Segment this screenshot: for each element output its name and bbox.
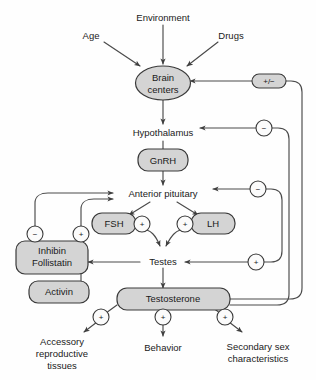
gnrh-label: GnRH [150,155,177,166]
arrow-age-to-brain [104,42,140,66]
sign-fsh-label: + [140,220,145,229]
sign-secondary-sex-positive: + [217,309,233,325]
sign-lh-label: + [183,220,188,229]
accessory-line2: reproductive [36,348,88,359]
sign-accessory-positive: + [93,309,109,325]
sign-behavior-label: + [161,313,166,322]
label-secondary-sex-characteristics: Secondary sex characteristics [227,341,290,364]
label-behavior: Behavior [144,342,182,353]
arrow-drugs-to-brain [187,42,218,66]
line-testosterone-to-anterior-pituitary-loop [264,189,282,262]
sign-inhibin-label: − [33,230,38,239]
arrow-to-secondary-sex [229,322,242,332]
node-anterior-pituitary: Anterior pituitary [128,188,197,199]
sign-secondary-sex-label: + [223,313,228,322]
node-testes: Testes [149,256,177,267]
sign-behavior-positive: + [155,309,171,325]
secondary-line2: characteristics [228,353,289,364]
sign-anterior-pituitary-label: − [256,185,261,194]
sign-anterior-pituitary-feedback: − [250,181,266,197]
label-accessory-reproductive-tissues: Accessory reproductive tissues [36,336,88,371]
inhibin-label-line1: Inhibin [38,245,66,256]
accessory-line1: Accessory [40,336,84,347]
endocrine-feedback-diagram: Brain centers Hypothalamus GnRH Anterior… [0,0,316,380]
sign-accessory-label: + [99,313,104,322]
arrow-to-accessory-tissues [84,322,97,332]
node-fsh: FSH [92,213,136,234]
testosterone-label: Testosterone [146,293,200,304]
sign-hypothalamus-feedback: − [256,120,272,136]
sign-brain-centers-feedback: +/− [252,74,286,88]
arrow-anterior-pituitary-to-lh [177,202,198,215]
node-hypothalamus: Hypothalamus [133,127,194,138]
label-drugs: Drugs [218,30,244,41]
node-inhibin-follistatin: Inhibin Follistatin [16,241,88,274]
secondary-line1: Secondary sex [227,341,290,352]
sign-activin-label: + [79,230,84,239]
brain-centers-label-line1: Brain [152,72,174,83]
sign-hypothalamus-label: − [262,124,267,133]
node-testosterone: Testosterone [117,288,230,310]
sign-testes-feedback-plus: + [248,254,264,270]
node-brain-centers: Brain centers [136,66,191,100]
sign-fsh-positive: + [134,216,150,232]
node-activin: Activin [29,281,89,303]
node-gnrh: GnRH [138,149,188,171]
accessory-line3: tissues [47,360,77,371]
sign-inhibin-negative: − [27,226,43,242]
label-age: Age [83,30,100,41]
sign-lh-positive: + [177,216,193,232]
inhibin-label-line2: Follistatin [32,257,72,268]
activin-label: Activin [45,286,73,297]
node-lh: LH [191,213,235,234]
fsh-label: FSH [105,218,124,229]
line-testosterone-to-hypothalamus-loop [230,128,289,305]
lh-label: LH [207,218,219,229]
sign-activin-positive: + [73,226,89,242]
brain-centers-label-line2: centers [147,84,178,95]
label-environment: Environment [136,12,190,23]
sign-testes-plus-label: + [254,258,259,267]
arrow-anterior-pituitary-to-fsh [129,202,150,215]
sign-brain-centers-label: +/− [263,77,275,86]
